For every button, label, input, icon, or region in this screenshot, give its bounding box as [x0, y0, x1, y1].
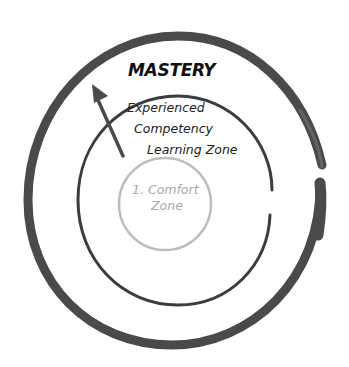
comfort-zone-diagram: MASTERY Experienced Competency Learning … [0, 0, 349, 367]
arrow-up-left-icon [92, 84, 123, 156]
learning-zone-label: Learning Zone [147, 142, 238, 157]
competency-label: Competency [134, 121, 213, 136]
comfort-zone-label-line1: 1. Comfort [132, 182, 199, 197]
mastery-label: MASTERY [128, 60, 215, 80]
comfort-zone-label-line2: Zone [151, 198, 183, 213]
experienced-label: Experienced [127, 100, 205, 115]
